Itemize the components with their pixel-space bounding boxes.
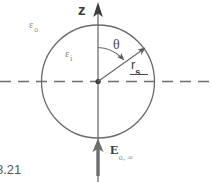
z-axis-label: z (78, 2, 86, 17)
inner-permittivity-label: εi (65, 48, 72, 62)
efield-label: Eo, ∞ (110, 143, 134, 160)
polar-angle-arrowhead (117, 53, 124, 61)
radius-vector-arrowhead (138, 48, 146, 56)
efield-subscript: o, ∞ (119, 153, 134, 162)
radius-label: rs (131, 58, 140, 75)
radius-label-underline (130, 74, 148, 75)
radius-subscript: s (135, 67, 140, 77)
efield-symbol: E (110, 142, 119, 157)
inner-permittivity-symbol: ε (65, 47, 70, 59)
polar-angle-label: θ (113, 38, 120, 52)
outer-permittivity-symbol: ε (29, 18, 34, 30)
outer-permittivity-subscript: o (34, 25, 38, 34)
inner-permittivity-subscript: i (70, 54, 72, 63)
outer-permittivity-label: εo (29, 19, 37, 33)
figure-container: z εo εi θ rs Eo, ∞ 8.21 (0, 0, 211, 182)
figure-caption: 8.21 (0, 163, 21, 176)
